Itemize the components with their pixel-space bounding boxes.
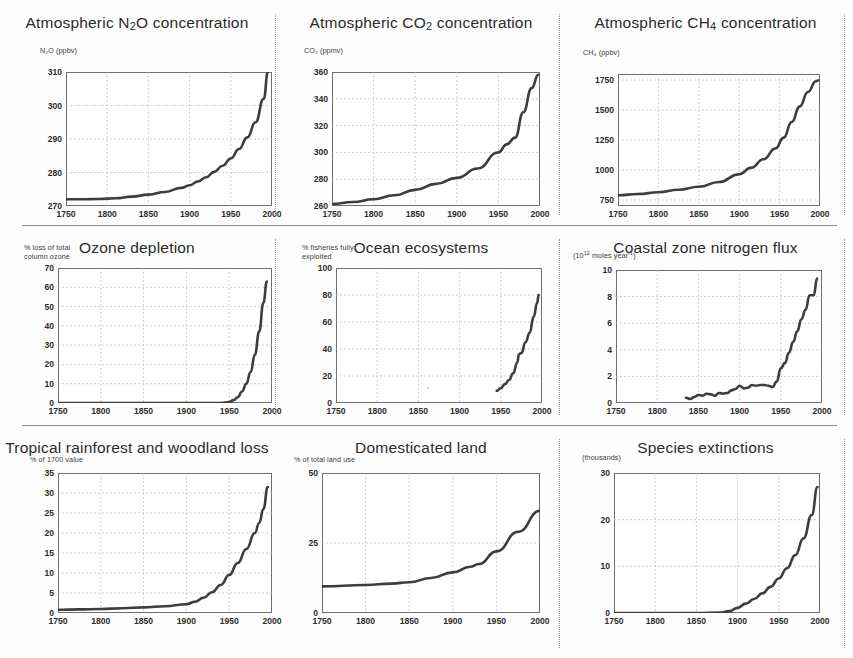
y-axis-tick-label: 5 bbox=[49, 588, 54, 598]
plot-ozone: 010203040506070175018001850190019502000 bbox=[58, 268, 272, 403]
x-axis-tick-label: 1950 bbox=[491, 406, 510, 416]
ylabel-ocean: % fisheries fully exploited bbox=[302, 243, 354, 261]
y-axis-tick-label: 35 bbox=[44, 468, 54, 478]
plot-canvas bbox=[616, 270, 822, 403]
x-axis-tick-label: 2000 bbox=[262, 616, 281, 626]
y-axis-tick-label: 290 bbox=[48, 134, 62, 144]
y-axis-tick-label: 60 bbox=[322, 317, 332, 327]
y-axis-tick-label: 70 bbox=[44, 263, 54, 273]
x-axis-tick-label: 1900 bbox=[177, 616, 196, 626]
plot-ch4: 7501000125015001750175018001850190019502… bbox=[618, 74, 820, 206]
y-axis-tick-label: 60 bbox=[44, 282, 54, 292]
x-axis-tick-label: 2000 bbox=[810, 209, 829, 219]
y-axis-tick-label: 40 bbox=[44, 321, 54, 331]
ylabel-nflux: (1012 moles year-1) bbox=[573, 249, 636, 260]
y-axis-tick-label: 50 bbox=[44, 302, 54, 312]
data-series-line bbox=[58, 487, 268, 610]
panel-land: Domesticated land % of total land use 02… bbox=[284, 425, 568, 658]
plot-canvas bbox=[58, 473, 272, 613]
data-series-line bbox=[497, 295, 539, 391]
y-axis-tick-label: 20 bbox=[600, 515, 610, 525]
x-axis-tick-label: 1850 bbox=[409, 406, 428, 416]
y-axis-tick-label: 10 bbox=[600, 561, 610, 571]
y-axis-tick-label: 25 bbox=[44, 508, 54, 518]
x-axis-tick-label: 1750 bbox=[56, 209, 75, 219]
x-axis-tick-label: 1900 bbox=[730, 209, 749, 219]
plot-extinctions: 0102030175018001850190019502000 bbox=[614, 473, 820, 613]
x-axis-tick-label: 1750 bbox=[606, 406, 625, 416]
y-axis-tick-label: 1250 bbox=[595, 135, 614, 145]
row-divider-2 bbox=[22, 425, 837, 426]
y-axis-tick-label: 40 bbox=[322, 344, 332, 354]
gridlines bbox=[332, 72, 540, 206]
x-axis-tick-label: 1800 bbox=[91, 406, 110, 416]
x-axis-tick-label: 1950 bbox=[221, 209, 240, 219]
y-axis-tick-label: 360 bbox=[314, 67, 328, 77]
plot-canvas bbox=[614, 473, 820, 613]
x-axis-tick-label: 1750 bbox=[322, 209, 341, 219]
x-axis-tick-label: 2000 bbox=[810, 616, 829, 626]
panel-ch4: Atmospheric CH4 concentration CH₄ (ppbv)… bbox=[568, 0, 853, 225]
ylabel-land: % of total land use bbox=[294, 455, 355, 464]
x-axis-tick-label: 1900 bbox=[180, 209, 199, 219]
x-axis-tick-label: 1850 bbox=[134, 616, 153, 626]
data-series-line bbox=[66, 72, 268, 199]
x-axis-tick-label: 1900 bbox=[450, 406, 469, 416]
x-axis-tick-label: 1800 bbox=[648, 406, 667, 416]
y-axis-tick-label: 310 bbox=[48, 67, 62, 77]
x-axis-tick-label: 1850 bbox=[406, 209, 425, 219]
y-axis-tick-label: 6 bbox=[607, 318, 612, 328]
panel-ozone: Ozone depletion % loss of total column o… bbox=[0, 225, 284, 425]
y-axis-tick-label: 1500 bbox=[595, 105, 614, 115]
x-axis-tick-label: 1750 bbox=[608, 209, 627, 219]
plot-canvas bbox=[618, 74, 820, 206]
y-axis-tick-label: 15 bbox=[44, 548, 54, 558]
ylabel-forest: % of 1700 value bbox=[30, 455, 83, 464]
y-axis-tick-label: 4 bbox=[607, 345, 612, 355]
x-axis-tick-label: 1850 bbox=[139, 209, 158, 219]
x-axis-tick-label: 1800 bbox=[649, 209, 668, 219]
x-axis-tick-label: 2000 bbox=[530, 616, 549, 626]
x-axis-tick-label: 1900 bbox=[728, 616, 747, 626]
plot-canvas bbox=[322, 473, 540, 613]
panel-title-n2o: Atmospheric N2O concentration bbox=[0, 14, 274, 32]
ylabel-extinctions: (thousands) bbox=[582, 453, 621, 462]
x-axis-tick-label: 1850 bbox=[400, 616, 419, 626]
y-axis-tick-label: 80 bbox=[322, 290, 332, 300]
ylabel-n2o: N₂O (ppbv) bbox=[40, 46, 77, 55]
panel-nflux: Coastal zone nitrogen flux (1012 moles y… bbox=[568, 225, 853, 425]
x-axis-tick-label: 1750 bbox=[312, 616, 331, 626]
x-axis-tick-label: 1850 bbox=[134, 406, 153, 416]
y-axis-tick-label: 2 bbox=[607, 371, 612, 381]
y-axis-tick-label: 1000 bbox=[595, 165, 614, 175]
y-axis-tick-label: 30 bbox=[600, 468, 610, 478]
y-axis-tick-label: 20 bbox=[44, 359, 54, 369]
y-axis-tick-label: 10 bbox=[44, 568, 54, 578]
x-axis-tick-label: 1950 bbox=[220, 616, 239, 626]
panel-title-co2: Atmospheric CO2 concentration bbox=[284, 14, 558, 32]
x-axis-tick-label: 2000 bbox=[812, 406, 831, 416]
x-axis-tick-label: 1800 bbox=[98, 209, 117, 219]
x-axis-tick-label: 1900 bbox=[443, 616, 462, 626]
ylabel-ch4: CH₄ (ppbv) bbox=[583, 48, 620, 57]
panel-title-ch4: Atmospheric CH4 concentration bbox=[568, 14, 843, 32]
plot-n2o: 270280290300310175018001850190019502000 bbox=[66, 72, 272, 206]
y-axis-tick-label: 100 bbox=[318, 263, 332, 273]
x-axis-tick-label: 1750 bbox=[604, 616, 623, 626]
x-axis-tick-label: 1950 bbox=[769, 616, 788, 626]
plot-canvas bbox=[58, 268, 272, 403]
data-series-line bbox=[58, 282, 267, 404]
y-axis-tick-label: 750 bbox=[600, 195, 614, 205]
panel-forest: Tropical rainforest and woodland loss % … bbox=[0, 425, 284, 658]
x-axis-tick-label: 1800 bbox=[356, 616, 375, 626]
gridlines bbox=[616, 270, 822, 403]
x-axis-tick-label: 1950 bbox=[220, 406, 239, 416]
y-axis-tick-label: 340 bbox=[314, 94, 328, 104]
gridlines bbox=[618, 74, 820, 206]
x-axis-tick-label: 1750 bbox=[48, 406, 67, 416]
x-axis-tick-label: 1950 bbox=[771, 406, 790, 416]
y-axis-tick-label: 30 bbox=[44, 340, 54, 350]
x-axis-tick-label: 1800 bbox=[364, 209, 383, 219]
data-series-line bbox=[614, 487, 818, 613]
ylabel-ozone: % loss of total column ozone bbox=[24, 243, 70, 261]
